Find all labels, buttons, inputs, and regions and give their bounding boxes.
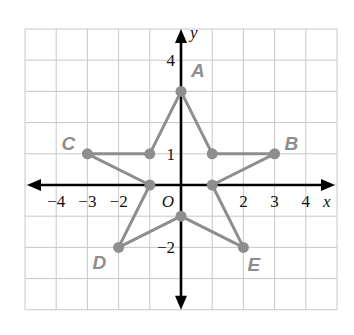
x-axis-left-arrow-icon [27,179,41,191]
x-tick-label: 4 [302,192,311,211]
y-axis-up-arrow-icon [175,29,187,43]
axes [27,29,335,310]
point-label-e: E [247,254,261,275]
vertex-point [144,180,155,191]
point-label-d: D [93,252,107,273]
y-tick-label: −2 [157,238,175,257]
vertex-point [238,242,249,253]
x-axis-right-arrow-icon [321,179,335,191]
point-label-b: B [285,133,299,154]
vertex-point [176,211,187,222]
y-tick-label: 4 [167,51,176,70]
y-axis-down-arrow-icon [175,296,187,310]
vertex-point [176,86,187,97]
x-axis-label: x [322,192,331,211]
vertex-point [207,180,218,191]
x-tick-label: −4 [47,192,66,211]
vertex-point [207,148,218,159]
coordinate-plane: −4−3−223441−2 ABCDE x y O [0,0,354,335]
y-axis-label: y [188,23,198,42]
point-label-c: C [61,133,75,154]
vertex-point [144,148,155,159]
y-tick-label: 1 [167,145,176,164]
vertex-point [82,148,93,159]
origin-label: O [162,192,174,211]
vertex-point [269,148,280,159]
x-tick-label: 2 [239,192,248,211]
x-tick-label: 3 [270,192,279,211]
x-tick-label: −3 [78,192,96,211]
x-tick-label: −2 [110,192,128,211]
vertex-point [113,242,124,253]
point-label-a: A [190,60,205,81]
